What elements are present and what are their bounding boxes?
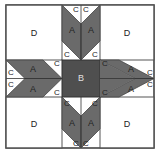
label-c: C <box>83 139 89 148</box>
label-a-right-bottom: A <box>128 84 134 94</box>
label-c: C <box>64 50 70 59</box>
label-c: C <box>102 59 108 68</box>
label-d-top-left: D <box>31 28 38 38</box>
label-c: C <box>54 59 60 68</box>
label-c: C <box>8 68 14 77</box>
label-a-bottom-left: A <box>69 118 75 128</box>
label-c: C <box>92 50 98 59</box>
label-a-left-bottom: A <box>30 84 36 94</box>
label-c: C <box>54 88 60 97</box>
label-c: C <box>147 80 153 89</box>
label-c: C <box>92 99 98 108</box>
label-b-center: B <box>78 73 84 83</box>
label-c: C <box>64 99 70 108</box>
label-d-top-right: D <box>124 28 131 38</box>
label-c: C <box>102 88 108 97</box>
label-c: C <box>147 68 153 77</box>
label-c: C <box>73 139 79 148</box>
label-c: C <box>8 80 14 89</box>
label-a-right-top: A <box>128 64 134 74</box>
label-a-top-right: A <box>88 25 94 35</box>
label-c: C <box>83 5 89 14</box>
label-a-bottom-right: A <box>88 118 94 128</box>
label-d-bottom-left: D <box>31 119 38 129</box>
quilt-block-diagram: D D D D B A A A A A A A A C C C C C C C … <box>0 0 162 155</box>
label-a-left-top: A <box>30 64 36 74</box>
label-c: C <box>73 5 79 14</box>
label-d-bottom-right: D <box>124 119 131 129</box>
label-a-top-left: A <box>69 25 75 35</box>
